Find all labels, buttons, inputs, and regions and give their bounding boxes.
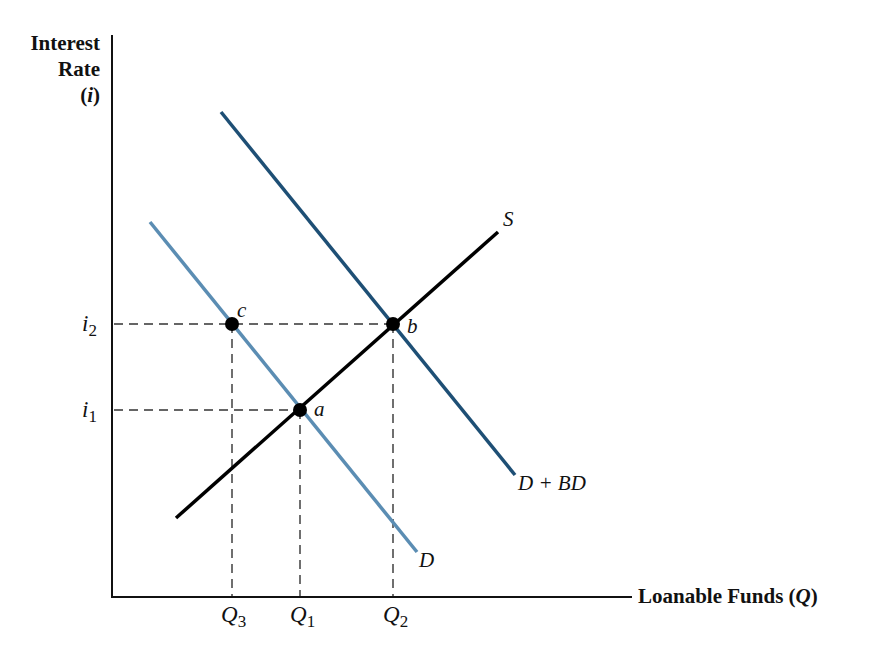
tick-q3: Q3 [221, 602, 246, 631]
tick-i2: i2 [82, 311, 97, 340]
demand-curve-d [150, 222, 417, 552]
label-s: S [503, 207, 514, 231]
tick-q1: Q1 [290, 602, 315, 631]
guide-lines [114, 324, 393, 596]
label-a: a [314, 397, 325, 421]
label-d: D [418, 548, 434, 572]
label-c: c [237, 298, 247, 322]
label-d-plus-bd: D + BD [517, 471, 586, 495]
point-b [386, 317, 400, 331]
tick-i1: i1 [82, 397, 97, 426]
label-b: b [407, 314, 418, 338]
chart-canvas: S D D + BD c a b i2 i1 Q3 Q1 Q2 [0, 0, 873, 660]
tick-q2: Q2 [383, 602, 408, 631]
supply-curve-s [176, 232, 498, 518]
point-a [293, 403, 307, 417]
demand-curve-d-plus-bd [221, 112, 515, 475]
